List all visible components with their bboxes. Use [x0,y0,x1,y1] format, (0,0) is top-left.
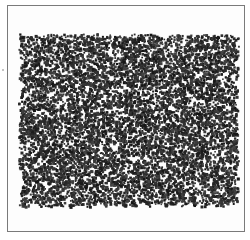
scatter-plot-area [0,0,250,240]
